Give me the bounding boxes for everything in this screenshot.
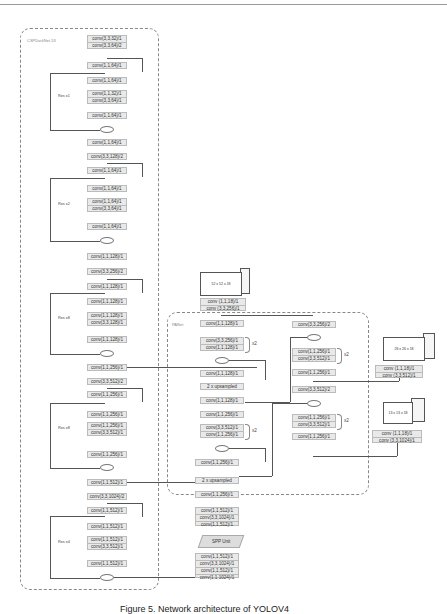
head-26-line [313,381,399,382]
cross-line [265,448,266,462]
backbone-block-23: conv(1,1,512)/1 [87,479,127,486]
panet-left-10: conv(1,1,512)/1 conv(3,3,1024)/1 conv(1,… [195,507,239,526]
output-13-label: 13 x 13 x 18 [383,402,413,424]
head-52-convs: conv (1,1,18)/1 conv (3,3,256)/1 [200,298,246,311]
cross-line [265,360,266,380]
repeat-x2: x2 [344,418,349,423]
output-26-label: 26 x 26 x 18 [383,337,425,361]
cross-line [290,337,307,338]
backbone-block-13: conv(1,1,128)/1 [87,283,127,290]
output-52: 52 x 52 x 18 [200,268,250,296]
backbone-block-25: conv(1,1,512)/1 [87,507,127,514]
skip-line [50,293,51,354]
backbone-block-5: conv(1,1,64)/1 [87,139,127,146]
backbone-block-28: conv(1,1,512)/1 [87,560,127,567]
repeat-x2: x2 [344,352,349,357]
panet-left-0: conv(1,1,128)/1 [200,320,244,327]
head-13-line [313,456,397,457]
backbone-block-12: conv(3,3,256)/2 [87,268,127,275]
repeat-label-res2: Res x2 [58,202,70,206]
csp-line [107,503,142,504]
repeat-label-res1: Res x1 [58,94,70,98]
panet-right-4: conv(1,1,256)/1 conv(3,3,512)/1 [292,414,336,428]
backbone-block-17: conv(1,1,256)/1 [87,364,127,371]
backbone-block-6: conv(3,3,128)/2 [87,153,127,160]
add-node [215,357,229,364]
panet-right-3: conv(3,3,512)/2 [292,386,336,393]
backbone-block-20: conv(1,1,256)/1 [87,411,127,418]
panet-left-3: 2 x upsampled [200,383,244,390]
add-node [100,574,114,581]
cross-line [229,360,265,361]
csp-line [142,503,143,517]
csp-line [142,279,143,293]
backbone-block-3: conv(1,1,32)/1 conv(3,3,64)/1 [87,90,127,104]
backbone-block-26: conv(1,1,512)/1 [87,523,127,530]
csp-line [142,58,143,72]
panet-left-5: conv(1,1,256)/1 [200,411,244,418]
head-26-convs: conv (1,1,18)/1 conv (3,3,512)/1 [375,365,423,378]
add-node [100,464,114,471]
add-node [100,126,114,133]
csp-line [107,58,142,59]
skip-line [50,73,51,130]
backbone-block-10: conv(1,1,64)/1 [87,223,127,230]
repeat-x2: x2 [252,341,257,346]
csp-line [142,388,143,402]
panet-left-9: conv(1,1,256)/1 [195,491,239,498]
skip-line [50,403,51,468]
panet-right-5: conv(1,1,256)/1 [292,433,336,440]
backbone-block-18: conv(3,3,512)/2 [87,378,127,385]
repeat-brace [337,348,342,364]
backbone-block-27: conv(1,1,512)/1 conv(3,3,512)/1 [87,536,127,550]
backbone-block-14: conv(1,1,128)/1 [87,298,127,305]
panet-label: PANet [172,322,183,327]
repeat-brace [245,424,250,440]
add-node [100,350,114,357]
skip-line [50,178,51,241]
backbone-block-8: conv(1,1,64)/1 [87,185,127,192]
panet-region [167,312,369,495]
csp-line [107,163,142,164]
skip-line [50,293,105,294]
head-13-line [397,443,398,456]
add-node [100,237,114,244]
repeat-label-res8b: Res x8 [58,426,70,430]
head-13-convs: conv (1,1,18)/1 conv (3,3,1024)/1 [372,430,422,443]
panet-left-4: conv(1,1,128)/1 [200,397,244,404]
add-node [307,400,321,407]
skip-line [50,578,100,579]
backbone-label: CSPDarkNet-53 [27,38,56,43]
panet-left-7: conv(1,1,256)/1 [195,459,239,466]
repeat-brace [337,414,342,430]
repeat-label-res4: Res x4 [58,540,70,544]
backbone-block-9: conv(1,1,64)/1 conv(3,3,64)/1 [87,198,127,212]
spp-pre-convs: conv(1,1,512)/1 conv(3,3,1024)/1 conv(1,… [195,553,239,578]
output-13: 13 x 13 x 18 [383,398,435,426]
csp-line [107,388,142,389]
cross-line [272,403,307,404]
head-26-line [399,378,400,381]
panet-left-2: conv(1,1,128)/1 [200,370,244,377]
skip-line [50,241,100,242]
backbone-block-4: conv(1,1,64)/1 [87,112,127,119]
csp-line [142,163,143,177]
backbone-block-24: conv(3,3,1024)/2 [87,493,127,500]
backbone-block-2: conv(1,1,64)/1 [87,77,127,84]
backbone-block-15: conv(1,1,128)/1 conv(3,3,128)/1 [87,312,127,326]
backbone-block-1: conv(1,1,64)/1 [87,62,127,69]
cross-line [221,315,313,316]
backbone-block-11: conv(1,1,128)/1 [87,253,127,260]
panet-left-6: conv(3,3,512)/1 conv(1,1,256)/1 [200,424,244,438]
skip-line [50,130,100,131]
output-26: 26 x 26 x 18 [383,333,435,361]
skip-line [50,516,105,517]
panet-left-1: conv(3,3,256)/1 conv(1,1,128)/1 [200,337,244,351]
cross-line [272,403,273,476]
cross-line [229,448,265,449]
backbone-block-22: conv(1,1,256)/1 [87,451,127,458]
page-top-rule [0,4,447,5]
repeat-label-res8a: Res x8 [58,316,70,320]
skip-line [50,516,51,578]
cross-line [239,476,272,477]
